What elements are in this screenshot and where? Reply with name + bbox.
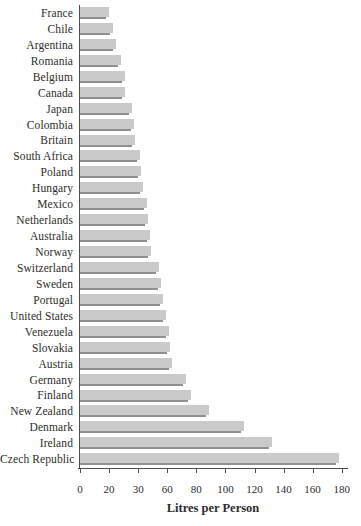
bar-row: Sweden: [0, 276, 361, 292]
bar: [80, 326, 169, 336]
bar-shadow: [80, 463, 336, 465]
bar-row: Poland: [0, 164, 361, 180]
bar-shadow: [80, 256, 148, 258]
bar-chart: FranceChileArgentinaRomaniaBelgiumCanada…: [0, 0, 361, 526]
bar-row: Finland: [0, 388, 361, 404]
country-label: United States: [0, 310, 73, 322]
bar-row: Argentina: [0, 37, 361, 53]
bar: [80, 182, 143, 192]
bar-shadow: [80, 145, 132, 147]
x-axis-tick: [80, 469, 81, 473]
bar-shadow: [80, 240, 147, 242]
x-axis-tick-label: 180: [333, 483, 350, 495]
country-label: Romania: [0, 55, 73, 67]
bar: [80, 7, 109, 17]
bar: [80, 55, 121, 65]
x-axis-tick: [109, 469, 110, 473]
bar-row: South Africa: [0, 148, 361, 164]
country-label: Netherlands: [0, 214, 73, 226]
bar-shadow: [80, 431, 241, 433]
bar: [80, 39, 116, 49]
country-label: France: [0, 7, 73, 19]
bar: [80, 262, 159, 272]
bar: [80, 119, 134, 129]
country-label: Venezuela: [0, 326, 73, 338]
country-label: Canada: [0, 87, 73, 99]
bar-row: Switzerland: [0, 260, 361, 276]
bar-shadow: [80, 320, 163, 322]
bar-row: Mexico: [0, 196, 361, 212]
country-label: Hungary: [0, 182, 73, 194]
bar-shadow: [80, 81, 122, 83]
x-axis-tick: [313, 469, 314, 473]
country-label: Mexico: [0, 198, 73, 210]
country-label: Austria: [0, 358, 73, 370]
bar: [80, 246, 151, 256]
bar-row: Romania: [0, 53, 361, 69]
bar-row: Chile: [0, 21, 361, 37]
country-label: Finland: [0, 389, 73, 401]
bar-row: New Zealand: [0, 403, 361, 419]
country-label: Norway: [0, 246, 73, 258]
bar-shadow: [80, 129, 131, 131]
country-label: Slovakia: [0, 342, 73, 354]
bar-shadow: [80, 415, 206, 417]
bar-row: Venezuela: [0, 324, 361, 340]
x-axis-tick-label: 80: [191, 483, 202, 495]
x-axis-tick: [255, 469, 256, 473]
bar: [80, 198, 147, 208]
bar-row: France: [0, 5, 361, 21]
country-label: Portugal: [0, 294, 73, 306]
bar-shadow: [80, 288, 158, 290]
country-label: Switzerland: [0, 262, 73, 274]
x-axis-tick: [196, 469, 197, 473]
bar-shadow: [80, 336, 166, 338]
bar-shadow: [80, 65, 118, 67]
bar-row: Britain: [0, 133, 361, 149]
bar-shadow: [80, 17, 106, 19]
country-label: Poland: [0, 166, 73, 178]
x-axis-tick: [138, 469, 139, 473]
bar: [80, 71, 125, 81]
x-axis-tick-label: 60: [162, 483, 173, 495]
bar-row: Australia: [0, 228, 361, 244]
bar-shadow: [80, 192, 140, 194]
bar-row: Hungary: [0, 180, 361, 196]
country-label: Japan: [0, 103, 73, 115]
bar: [80, 390, 191, 400]
country-label: Ireland: [0, 437, 73, 449]
bar: [80, 214, 148, 224]
country-label: Britain: [0, 134, 73, 146]
bar-shadow: [80, 304, 160, 306]
bar: [80, 437, 272, 447]
bar-row: Japan: [0, 101, 361, 117]
x-axis-tick-label: 120: [246, 483, 263, 495]
bar-row: United States: [0, 308, 361, 324]
bar: [80, 294, 163, 304]
plot-rows: FranceChileArgentinaRomaniaBelgiumCanada…: [0, 5, 361, 467]
bar-shadow: [80, 400, 188, 402]
bar: [80, 453, 339, 463]
x-axis-tick-label: 20: [104, 483, 115, 495]
bar: [80, 310, 166, 320]
bar: [80, 103, 132, 113]
country-label: Chile: [0, 23, 73, 35]
bar-shadow: [80, 272, 156, 274]
country-label: Australia: [0, 230, 73, 242]
country-label: Belgium: [0, 71, 73, 83]
x-axis-tick: [284, 469, 285, 473]
country-label: Colombia: [0, 119, 73, 131]
bar: [80, 405, 209, 415]
bar-row: Portugal: [0, 292, 361, 308]
bar-row: Denmark: [0, 419, 361, 435]
x-axis-tick: [342, 469, 343, 473]
country-label: South Africa: [0, 150, 73, 162]
bar-shadow: [80, 176, 138, 178]
bar: [80, 278, 161, 288]
x-axis-tick-label: 100: [217, 483, 234, 495]
bar: [80, 374, 186, 384]
bar: [80, 230, 150, 240]
bar-row: Canada: [0, 85, 361, 101]
bar-row: Austria: [0, 356, 361, 372]
bar-shadow: [80, 97, 122, 99]
